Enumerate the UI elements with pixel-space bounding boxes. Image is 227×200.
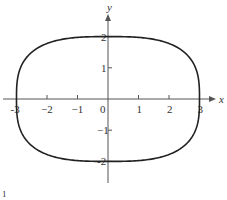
y-axis-arrow: [105, 14, 111, 21]
chart: -3−2−1123 -2−112 x y 0: [0, 0, 227, 200]
figure-number-fragment: 1: [2, 189, 7, 199]
y-axis-label: y: [106, 1, 112, 13]
x-tick-label: 2: [167, 103, 173, 115]
x-tick-label: −1: [72, 103, 84, 115]
x-tick-label: -3: [11, 103, 21, 115]
x-axis-label: x: [218, 93, 224, 105]
origin-label: 0: [100, 103, 106, 115]
x-tick-label: −2: [41, 103, 53, 115]
y-tick-label: −1: [97, 124, 109, 136]
y-tick-label: 1: [101, 62, 107, 74]
x-axis-arrow: [209, 96, 216, 102]
x-tick-label: 1: [137, 103, 143, 115]
